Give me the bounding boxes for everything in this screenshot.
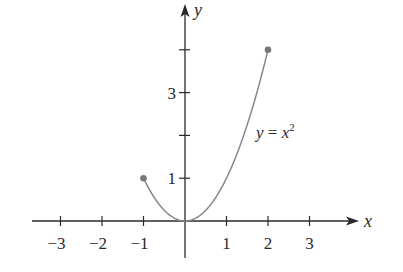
curve-label: y = x2 (254, 121, 295, 142)
curve-label-eq: = (264, 123, 282, 142)
y-tick-label: 3 (168, 84, 177, 103)
x-tick-label: −2 (89, 234, 107, 253)
curve-label-superscript: 2 (289, 121, 295, 133)
x-tick-label: −1 (130, 234, 148, 253)
y-ticks: 13 (168, 50, 191, 188)
curve-label-y: y (254, 123, 264, 142)
y-tick-label: 1 (168, 169, 177, 188)
chart: x y −3−2−1123 13 y = x2 (0, 0, 403, 272)
endpoint-dots (140, 47, 271, 182)
endpoint-dot (140, 175, 147, 182)
x-tick-label: 1 (222, 234, 231, 253)
x-tick-label: −3 (47, 234, 65, 253)
x-tick-label: 3 (305, 234, 314, 253)
y-axis-label: y (192, 0, 202, 20)
parabola-curve (144, 50, 269, 221)
x-axis-label: x (363, 211, 372, 231)
x-tick-label: 2 (264, 234, 273, 253)
endpoint-dot (265, 47, 272, 54)
